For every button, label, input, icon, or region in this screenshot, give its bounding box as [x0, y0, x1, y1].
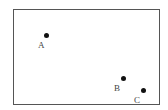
point-a-marker — [44, 33, 49, 38]
diagram-frame — [13, 9, 160, 105]
point-c-marker — [141, 88, 146, 93]
point-a-label: A — [38, 41, 45, 50]
point-c-label: C — [134, 96, 140, 105]
point-b-marker — [121, 76, 126, 81]
point-b-label: B — [114, 84, 120, 93]
